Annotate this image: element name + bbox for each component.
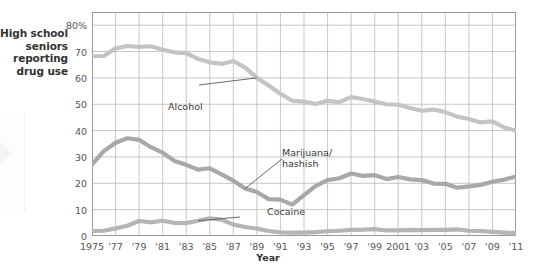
- y-tick-label: 20: [75, 178, 87, 189]
- x-tick-label: '95: [320, 241, 335, 252]
- x-tick-label: '77: [108, 241, 123, 252]
- x-tick-label: '97: [344, 241, 359, 252]
- x-tick-label: '91: [273, 241, 288, 252]
- x-tick-label: '07: [462, 241, 477, 252]
- y-tick-label: 0: [81, 231, 87, 242]
- x-tick-label: '03: [414, 241, 429, 252]
- edge-notch-shape: [0, 140, 12, 166]
- x-tick-label: '83: [179, 241, 194, 252]
- x-tick-label: 1975: [80, 241, 104, 252]
- x-tick-label: '05: [438, 241, 453, 252]
- series-label-cocaine: Cocaine: [267, 206, 305, 217]
- x-tick-label: '85: [202, 241, 217, 252]
- x-tick-label: '87: [226, 241, 241, 252]
- x-tick-label: '11: [509, 241, 524, 252]
- x-tick-label: '81: [155, 241, 170, 252]
- x-tick-label: 2001: [386, 241, 410, 252]
- y-tick-label: 60: [75, 72, 87, 83]
- y-tick-label: 30: [75, 151, 87, 162]
- series-label-marijuana-hashish: Marijuana/ hashish: [282, 147, 332, 169]
- x-tick-label: '93: [297, 241, 312, 252]
- y-tick-label: 80%: [66, 20, 87, 31]
- x-tick-label: '99: [367, 241, 382, 252]
- chart-plot-area: 01020304050607080%1975'77'79'81'83'85'87…: [92, 12, 516, 236]
- x-tick-label: '89: [250, 241, 265, 252]
- x-tick-label: '09: [485, 241, 500, 252]
- page-edge-decoration: [0, 112, 25, 212]
- chart-svg: [92, 12, 516, 236]
- y-tick-label: 70: [75, 46, 87, 57]
- series-label-alcohol: Alcohol: [168, 101, 203, 112]
- y-tick-label: 10: [75, 204, 87, 215]
- y-tick-label: 40: [75, 125, 87, 136]
- y-tick-label: 50: [75, 99, 87, 110]
- x-tick-label: '79: [132, 241, 147, 252]
- x-axis-title: Year: [0, 252, 536, 263]
- y-axis-caption: High school seniors reporting drug use: [0, 27, 68, 77]
